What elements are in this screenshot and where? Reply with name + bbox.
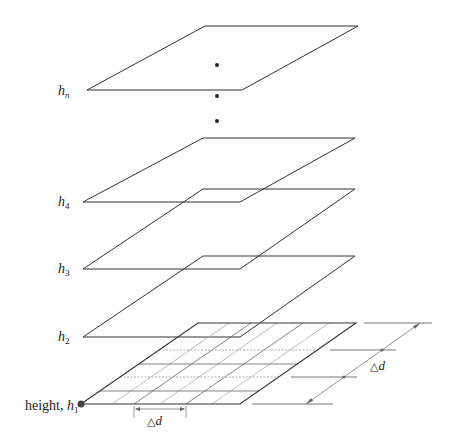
label-delta-d-diagonal: △d (370, 358, 385, 373)
ellipsis-dot (215, 63, 219, 67)
diagonal-dimension (252, 323, 432, 404)
label-h1: height, h1 (25, 398, 79, 415)
ellipsis-dot (215, 119, 219, 123)
label-delta-d-horizontal: △d (147, 413, 162, 428)
plane-h3 (83, 189, 355, 269)
plane-h2 (83, 256, 355, 337)
label-h4: h4 (58, 194, 70, 211)
ellipsis-dot (215, 94, 219, 98)
plane-hn (87, 26, 358, 90)
base-plane-grid (100, 323, 329, 404)
label-hn: hn (58, 83, 70, 100)
plane-h4 (83, 138, 355, 202)
base-point (78, 401, 85, 408)
label-h3: h3 (58, 261, 70, 278)
label-h2: h2 (58, 329, 70, 346)
stacked-planes-diagram: hn h4 h3 h2 height, h1 △d △d (0, 0, 455, 446)
